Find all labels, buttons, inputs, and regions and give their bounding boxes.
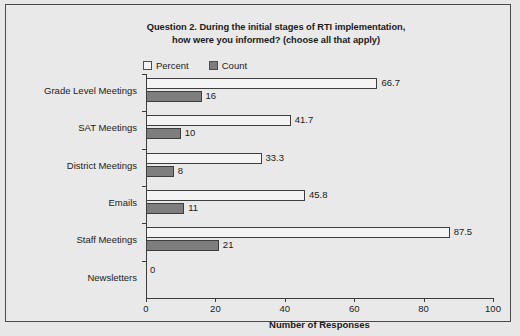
bar-group: Newsletters0 [146, 261, 493, 298]
x-axis-tick [285, 298, 286, 302]
y-axis-tick [142, 261, 146, 262]
bar-count [146, 240, 219, 251]
x-axis-tick [354, 298, 355, 302]
bar-group: Staff Meetings87.521 [146, 223, 493, 260]
bar-count [146, 91, 202, 102]
bar-value-label: 8 [178, 165, 183, 176]
bar-percent [146, 227, 450, 238]
bar-value-label: 16 [206, 90, 217, 101]
bar-value-label: 87.5 [454, 226, 473, 237]
x-axis-tick-label: 0 [143, 303, 148, 314]
chart-title-line-2: how were you informed? (choose all that … [66, 34, 486, 47]
bar-value-label: 0 [150, 264, 155, 275]
category-label: SAT Meetings [78, 122, 137, 133]
x-axis-title: Number of Responses [146, 319, 493, 330]
bar-percent [146, 78, 377, 89]
legend-label-count: Count [222, 60, 247, 71]
chart-frame: Question 2. During the initial stages of… [5, 4, 511, 322]
bar-value-label: 66.7 [381, 77, 400, 88]
y-axis-tick [142, 74, 146, 75]
bar-count [146, 166, 174, 177]
bar-percent [146, 190, 305, 201]
y-axis-tick [142, 186, 146, 187]
legend-item-count: Count [209, 60, 247, 71]
x-axis-tick [215, 298, 216, 302]
chart-figure: Question 2. During the initial stages of… [0, 0, 520, 336]
y-axis-tick [142, 111, 146, 112]
chart-title-line-1: Question 2. During the initial stages of… [66, 21, 486, 34]
x-axis-tick [146, 298, 147, 302]
category-label: Emails [108, 197, 137, 208]
bar-value-label: 11 [188, 202, 198, 213]
category-label: Newsletters [87, 272, 137, 283]
x-axis-line [146, 298, 494, 299]
plot-area: Grade Level Meetings66.716SAT Meetings41… [146, 74, 493, 298]
x-axis-tick-label: 40 [280, 303, 291, 314]
bar-group: Grade Level Meetings66.716 [146, 74, 493, 111]
x-axis-tick [493, 298, 494, 302]
bar-value-label: 33.3 [266, 152, 285, 163]
chart-title: Question 2. During the initial stages of… [66, 21, 486, 47]
y-axis-tick [142, 149, 146, 150]
bar-group: Emails45.811 [146, 186, 493, 223]
chart-legend: Percent Count [143, 60, 247, 71]
bar-value-label: 45.8 [309, 189, 328, 200]
category-label: Grade Level Meetings [44, 85, 137, 96]
bar-percent [146, 153, 262, 164]
x-axis-tick [424, 298, 425, 302]
category-label: District Meetings [67, 160, 137, 171]
legend-item-percent: Percent [143, 60, 189, 71]
x-axis-tick-label: 20 [210, 303, 221, 314]
bar-count [146, 203, 184, 214]
bar-value-label: 10 [185, 127, 196, 138]
bar-value-label: 41.7 [295, 114, 314, 125]
legend-swatch-count-icon [209, 61, 218, 70]
category-label: Staff Meetings [76, 234, 137, 245]
bar-group: SAT Meetings41.710 [146, 111, 493, 148]
legend-label-percent: Percent [156, 60, 189, 71]
bar-count [146, 128, 181, 139]
legend-swatch-percent-icon [143, 61, 152, 70]
x-axis-tick-label: 100 [485, 303, 501, 314]
bar-group: District Meetings33.38 [146, 149, 493, 186]
bar-percent [146, 115, 291, 126]
bar-value-label: 21 [223, 239, 234, 250]
y-axis-tick [142, 223, 146, 224]
x-axis-tick-label: 80 [418, 303, 429, 314]
x-axis-tick-label: 60 [349, 303, 360, 314]
